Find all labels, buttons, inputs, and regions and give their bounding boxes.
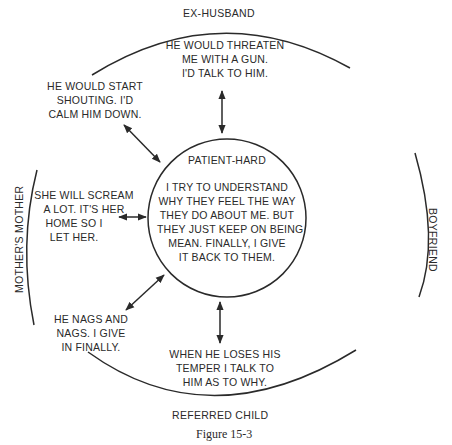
response-ex-husband-left: HE WOULD START SHOUTING. I'D CALM HIM DO… [35, 79, 155, 121]
response-referred-child-bottom: WHEN HE LOSES HIS TEMPER I TALK TO HIM A… [160, 347, 290, 389]
label-ex-husband: EX-HUSBAND [183, 7, 255, 19]
response-ex-husband-top: HE WOULD THREATEN ME WITH A GUN. I'D TAL… [160, 38, 290, 80]
label-mothers-mother: MOTHER'S MOTHER [13, 195, 25, 293]
figure-caption: Figure 15-3 [196, 427, 252, 442]
patient-description: I TRY TO UNDERSTAND WHY THEY FEEL THE WA… [157, 180, 297, 264]
arrow-referred-child-left [126, 275, 164, 310]
patient-title: PATIENT-HARD [177, 153, 277, 167]
label-referred-child: REFERRED CHILD [172, 409, 268, 421]
label-boyfriend: BOYFRIEND [427, 205, 439, 275]
response-referred-child-left: HE NAGS AND NAGS. I GIVE IN FINALLY. [44, 312, 138, 354]
response-mothers-mother: SHE WILL SCREAM A LOT. IT'S HER HOME SO … [28, 188, 140, 244]
arrow-ex-husband-left [124, 125, 160, 162]
relationship-diagram: EX-HUSBAND REFERRED CHILD MOTHER'S MOTHE… [0, 0, 452, 445]
